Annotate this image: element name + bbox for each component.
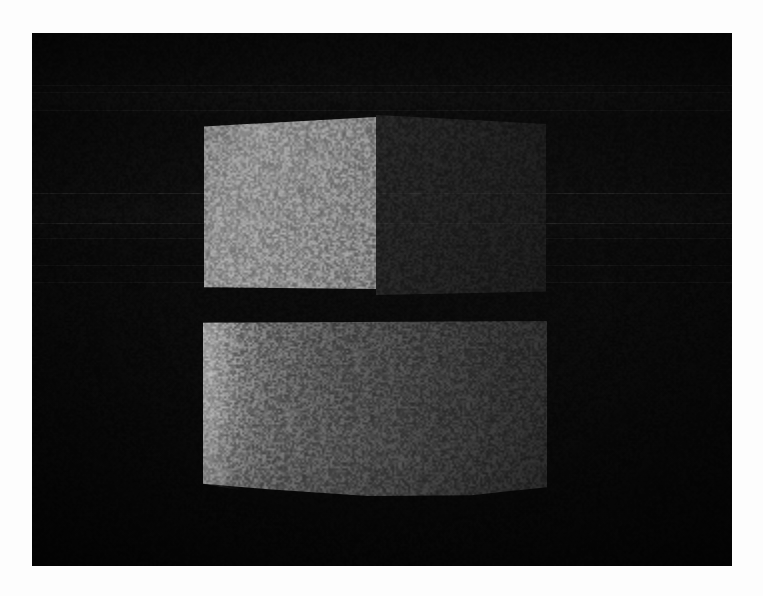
window-logo-geometry [32, 33, 732, 566]
render-canvas [32, 33, 732, 566]
panel-lower-wide-face [203, 321, 547, 496]
panel-upper-right-dark-face [376, 115, 546, 295]
panel-upper-left-bright-face [204, 117, 376, 289]
image-frame [0, 0, 763, 596]
